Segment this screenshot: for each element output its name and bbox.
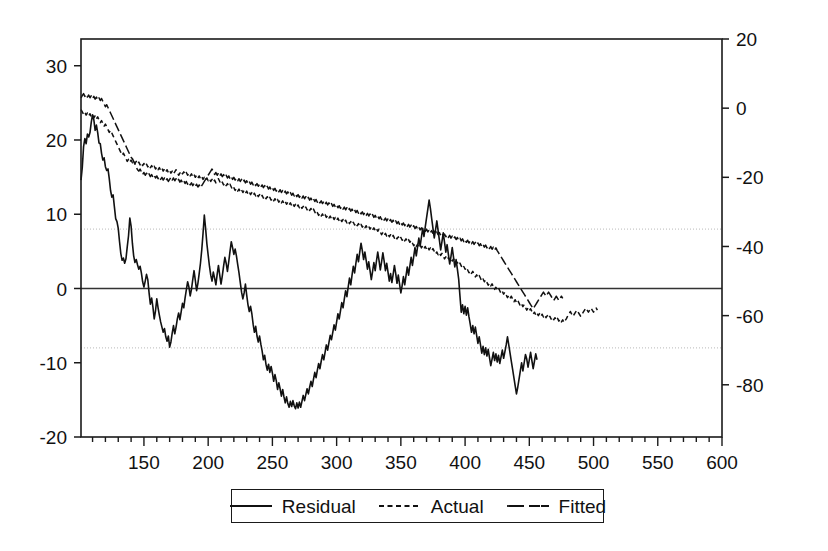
- left-tick-label: -10: [0, 353, 67, 372]
- left-tick-label: 20: [0, 131, 67, 150]
- x-tick-label: 450: [513, 453, 545, 472]
- x-tick-label: 150: [128, 453, 160, 472]
- x-tick-label: 250: [257, 453, 289, 472]
- x-tick-label: 400: [449, 453, 481, 472]
- right-tick-label: 20: [736, 30, 757, 49]
- right-tick-label: -80: [736, 375, 763, 394]
- chart-legend[interactable]: ResidualActualFitted: [231, 489, 604, 523]
- legend-swatch-solid: [229, 500, 273, 512]
- left-tick-label: 10: [0, 205, 67, 224]
- right-tick-label: -40: [736, 237, 763, 256]
- series-lines: [81, 94, 597, 409]
- right-tick-label: 0: [736, 99, 747, 118]
- x-tick-label: 300: [321, 453, 353, 472]
- axes-frame: [74, 39, 729, 446]
- series-line-residual: [81, 115, 537, 409]
- left-tick-label: -20: [0, 428, 67, 447]
- legend-label: Residual: [282, 497, 356, 516]
- left-tick-label: 0: [0, 279, 67, 298]
- legend-label: Actual: [431, 497, 484, 516]
- x-tick-label: 550: [642, 453, 674, 472]
- legend-swatch-dashed: [378, 500, 422, 512]
- x-tick-label: 200: [192, 453, 224, 472]
- legend-item-actual[interactable]: Actual: [367, 497, 495, 516]
- series-line-actual: [81, 110, 597, 323]
- x-tick-label: 350: [385, 453, 417, 472]
- right-tick-label: -60: [736, 306, 763, 325]
- series-line-fitted: [81, 94, 563, 309]
- x-tick-label: 500: [578, 453, 610, 472]
- legend-label: Fitted: [559, 497, 607, 516]
- right-tick-label: -20: [736, 168, 763, 187]
- x-tick-label: 600: [706, 453, 738, 472]
- legend-item-residual[interactable]: Residual: [218, 497, 367, 516]
- left-tick-label: 30: [0, 56, 67, 75]
- eviews-residual-chart: 3020100-10-20 200-20-40-60-80 1502002503…: [0, 0, 828, 551]
- legend-item-fitted[interactable]: Fitted: [495, 497, 618, 516]
- legend-swatch-dashdash: [506, 500, 550, 512]
